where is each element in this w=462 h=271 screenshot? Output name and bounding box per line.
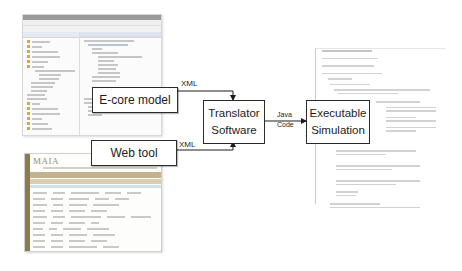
executable-label-line1: Executable (310, 105, 367, 122)
xml-label-bottom: XML (179, 140, 195, 149)
ecore-model-box: E-core model (92, 87, 178, 113)
executable-label-line2: Simulation (310, 122, 367, 139)
ecore-model-label: E-core model (99, 93, 170, 107)
executable-simulation-box: Executable Simulation (306, 100, 370, 144)
code-label: Code (277, 120, 294, 130)
web-tool-label: Web tool (110, 146, 157, 160)
web-tool-box: Web tool (91, 140, 177, 166)
xml-label-top: XML (181, 79, 197, 88)
java-code-label: Java Code (277, 110, 294, 130)
translator-label-line2: Software (208, 122, 259, 139)
translator-software-box: Translator Software (203, 100, 265, 144)
java-label: Java (277, 110, 294, 120)
translator-label-line1: Translator (208, 105, 259, 122)
